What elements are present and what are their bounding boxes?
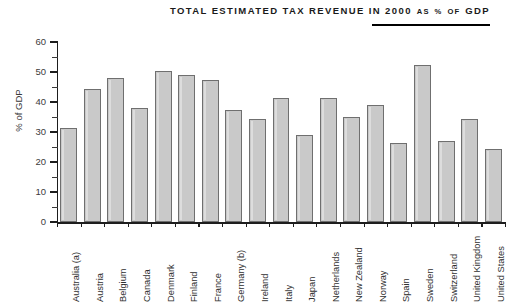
bar <box>131 108 148 222</box>
y-tick-label-50: 50 <box>20 67 46 77</box>
y-tick-label-60: 60 <box>20 37 46 47</box>
bar-highlight <box>204 82 206 221</box>
bar-highlight <box>463 121 465 221</box>
y-tick-label-40: 40 <box>20 97 46 107</box>
y-tick-40 <box>50 101 58 102</box>
x-axis-label: Canada <box>143 269 152 302</box>
bar <box>249 119 266 223</box>
x-axis-label: Denmark <box>167 264 176 302</box>
bar <box>367 105 384 222</box>
x-tick <box>340 222 341 227</box>
x-tick <box>364 222 365 227</box>
x-tick <box>411 222 412 227</box>
bar-highlight <box>440 143 442 220</box>
x-axis-label: France <box>214 273 223 302</box>
bar-highlight <box>251 121 253 221</box>
bar <box>273 98 290 222</box>
bar-highlight <box>369 107 371 220</box>
y-tick-label-0: 0 <box>20 217 46 227</box>
bar <box>155 71 172 222</box>
x-axis-label: Italy <box>285 285 294 302</box>
x-tick <box>458 222 459 227</box>
x-axis-label: Ireland <box>261 274 270 302</box>
bar <box>320 98 337 222</box>
x-axis-label: New Zealand <box>355 247 364 302</box>
x-tick <box>175 222 176 227</box>
bar-highlight <box>298 137 300 220</box>
x-tick <box>57 222 58 227</box>
x-axis-label: Belgium <box>119 268 128 302</box>
bar <box>202 80 219 223</box>
x-axis-label: United States <box>497 246 506 302</box>
x-axis-label: Spain <box>402 278 411 302</box>
x-tick <box>505 222 506 227</box>
x-tick <box>222 222 223 227</box>
bar-highlight <box>180 77 182 220</box>
y-tick-30 <box>50 131 58 132</box>
x-tick <box>434 222 435 227</box>
y-tick-minor-55 <box>52 57 58 58</box>
bar <box>414 65 431 222</box>
bar-highlight <box>392 145 394 221</box>
y-tick-label-text: 0 <box>24 217 46 227</box>
x-axis-label: Norway <box>379 270 388 302</box>
y-tick-60 <box>50 41 58 42</box>
bar-highlight <box>133 110 135 220</box>
bar-highlight <box>345 119 347 220</box>
x-axis-label: Sweden <box>426 268 435 302</box>
bar <box>84 89 101 222</box>
x-tick <box>269 222 270 227</box>
bar-highlight <box>157 73 159 220</box>
y-tick-10 <box>50 191 58 192</box>
y-tick-label-text: 40 <box>24 97 46 107</box>
y-tick-label-30: 30 <box>20 127 46 137</box>
bar-highlight <box>275 100 277 220</box>
x-tick <box>316 222 317 227</box>
y-tick-minor-35 <box>52 117 58 118</box>
bar-highlight <box>86 91 88 220</box>
bar-highlight <box>227 112 229 220</box>
x-axis-label: United Kingdom <box>473 236 482 302</box>
x-axis-line <box>57 222 505 224</box>
x-axis-label: Japan <box>308 277 317 302</box>
x-tick <box>246 222 247 227</box>
bar <box>60 128 77 223</box>
x-tick <box>104 222 105 227</box>
x-axis-label: Germany (b) <box>237 250 246 302</box>
bar <box>485 149 502 223</box>
bar-highlight <box>416 67 418 220</box>
bar <box>225 110 242 222</box>
bar <box>343 117 360 222</box>
bar <box>107 78 124 222</box>
bar-chart: % of GDP 0102030405060 Australia (a)Aust… <box>0 0 524 305</box>
y-tick-label-text: 10 <box>24 187 46 197</box>
bar <box>461 119 478 223</box>
bar <box>390 143 407 223</box>
y-tick-label-10: 10 <box>20 187 46 197</box>
x-axis-label: Finland <box>190 272 199 303</box>
bar-highlight <box>487 151 489 221</box>
y-tick-label-text: 20 <box>24 157 46 167</box>
y-tick-label-text: 50 <box>24 67 46 77</box>
bar-highlight <box>62 130 64 221</box>
x-tick <box>128 222 129 227</box>
x-tick <box>293 222 294 227</box>
bar <box>296 135 313 222</box>
x-tick <box>81 222 82 227</box>
y-tick-20 <box>50 161 58 162</box>
y-tick-label-text: 30 <box>24 127 46 137</box>
x-axis-label: Switzerland <box>450 254 459 302</box>
y-tick-label-text: 60 <box>24 37 46 47</box>
bar <box>438 141 455 222</box>
x-tick <box>387 222 388 227</box>
x-axis-label: Austria <box>96 273 105 302</box>
bar-highlight <box>109 80 111 220</box>
x-tick <box>198 222 199 227</box>
bar <box>178 75 195 222</box>
x-tick <box>481 222 482 227</box>
y-tick-minor-25 <box>52 147 58 148</box>
x-axis-label: Australia (a) <box>72 252 81 302</box>
y-tick-50 <box>50 71 58 72</box>
bar-highlight <box>322 100 324 220</box>
x-tick <box>151 222 152 227</box>
